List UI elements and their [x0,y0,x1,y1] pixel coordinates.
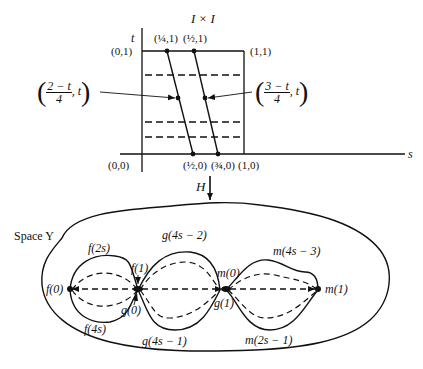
label-f2s: f(2s) [88,242,110,254]
right-callout-label: (3 − t4, t) [255,78,308,106]
point-label-quarter-one: (¼,1) [154,33,178,44]
path-g4s-minus-1 [138,290,220,330]
right-callout-tail: , t [290,84,299,98]
label-f1: f(1) [131,262,148,274]
left-callout-denominator: 4 [46,93,71,105]
path-m4s-minus-3 [226,260,318,290]
point-half-one [192,49,197,54]
square-title: I × I [191,12,215,25]
corner-label-origin: (0,0) [108,160,129,171]
point-f0 [67,286,73,292]
point-right-mid [203,96,208,101]
homotopy-path-m-lower [228,290,318,318]
homotopy-path-g-upper [140,262,220,290]
point-half-zero [191,152,196,157]
label-f4s: f(4s) [84,323,106,335]
left-callout-label: (2 − t4, t) [37,78,90,106]
slant-line-left [167,51,193,154]
point-left-mid [176,96,181,101]
left-callout-tail: , t [72,84,81,98]
path-f2s [70,255,138,290]
homotopy-path-f-upper [72,273,138,290]
t-axis-label: t [131,32,134,44]
map-h-label: H [196,180,205,193]
label-f0: f(0) [46,283,63,295]
corner-label-bottom-right: (1,0) [238,160,259,171]
label-m2s-minus-1: m(2s − 1) [245,334,292,346]
right-callout-denominator: 4 [264,93,289,105]
point-threequarter-zero [216,152,221,157]
label-g4s-minus-1: g(4s − 1) [142,335,187,347]
homotopy-path-g-lower [140,290,220,318]
right-callout-numerator: 3 − t [264,80,289,93]
label-g4s-minus-2: g(4s − 2) [162,229,207,241]
path-g4s-minus-2 [138,252,220,290]
point-label-half-zero: (½,0) [183,160,207,171]
space-y-label: Space Y [14,230,54,242]
left-callout-numerator: 2 − t [46,80,71,93]
point-quarter-one [165,49,170,54]
homotopy-path-m-upper [228,274,318,290]
point-label-threequarter-zero: (¾,0) [211,160,235,171]
diagram-canvas [0,0,423,369]
point-label-half-one: (½,1) [183,33,207,44]
corner-label-top-left: (0,1) [111,46,132,57]
label-g0: g(0) [121,304,141,316]
label-m1: m(1) [325,283,348,295]
label-m4s-minus-3: m(4s − 3) [273,245,320,257]
s-axis-label: s [408,148,413,160]
point-g1-m0 [221,286,231,292]
left-callout-arrow [100,92,175,98]
point-f1-g0 [133,286,143,292]
right-callout-arrow [208,92,252,98]
slant-line-right [194,51,218,154]
point-m1 [315,286,321,292]
label-m0: m(0) [217,267,240,279]
corner-label-top-right: (1,1) [250,46,271,57]
path-m2s-minus-1 [226,290,318,330]
label-g1: g(1) [214,297,234,309]
